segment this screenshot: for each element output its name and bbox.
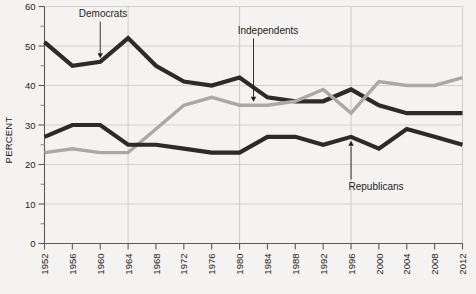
y-tick-label-30: 30 [25,120,36,131]
y-tick-label-0: 0 [30,238,35,249]
x-tick-label-1964: 1964 [123,254,134,275]
x-tick-label-1992: 1992 [318,254,329,275]
x-tick-label-1980: 1980 [234,254,245,275]
party-identification-line-chart: 0102030405060 19521956196019641968197219… [0,0,476,294]
x-tick-label-1960: 1960 [95,254,106,275]
y-tick-label-50: 50 [25,41,36,52]
x-tick-label-2012: 2012 [457,254,468,275]
y-axis-title: PERCENT [3,117,14,164]
x-tick-label-1968: 1968 [151,254,162,275]
x-tick-label-1988: 1988 [290,254,301,275]
x-tick-label-2000: 2000 [374,254,385,275]
x-tick-label-1952: 1952 [39,254,50,275]
x-tick-label-1984: 1984 [262,254,273,275]
annotation-label-independents: Independents [238,25,299,36]
x-tick-label-2004: 2004 [401,254,412,275]
y-tick-label-10: 10 [25,199,36,210]
x-tick-label-2008: 2008 [429,254,440,275]
chart-background [0,0,476,294]
annotation-label-democrats: Democrats [79,8,127,19]
x-tick-label-1956: 1956 [67,254,78,275]
x-tick-label-1996: 1996 [346,254,357,275]
x-tick-label-1972: 1972 [178,254,189,275]
x-tick-label-1976: 1976 [206,254,217,275]
chart-canvas: 0102030405060 19521956196019641968197219… [0,0,476,294]
figure-caption [0,287,476,294]
annotation-label-republicans: Republicans [348,181,403,192]
y-tick-label-60: 60 [25,1,36,12]
y-tick-label-40: 40 [25,80,36,91]
y-tick-label-20: 20 [25,159,36,170]
